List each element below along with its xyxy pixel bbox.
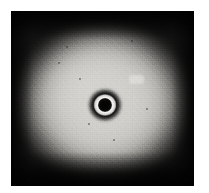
figure-alt-text: Grayscale photographic plate showing a b… (0, 0, 1, 1)
central-spot-dark-core (98, 98, 112, 112)
central-diffraction-spot (87, 87, 123, 123)
figure-root: Grayscale photographic plate showing a b… (0, 0, 209, 193)
photographic-plate (11, 11, 194, 186)
